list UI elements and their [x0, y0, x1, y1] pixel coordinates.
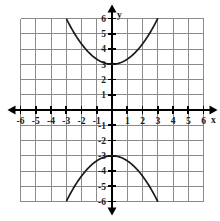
x-tick-label: 6: [201, 116, 206, 126]
y-tick-label: 2: [101, 75, 106, 85]
x-tick-label: 1: [125, 116, 130, 126]
x-tick-label: -3: [62, 116, 70, 126]
x-tick-label: -6: [17, 116, 25, 126]
graph-figure: -6-5-4-3-2-1123456654321-1-2-3-4-5-6 x y: [0, 0, 220, 221]
coordinate-plane-svg: -6-5-4-3-2-1123456654321-1-2-3-4-5-6 x y: [0, 0, 220, 221]
y-tick-label: 4: [101, 44, 106, 54]
x-tick-label: -5: [32, 116, 40, 126]
y-tick-label: -4: [98, 166, 106, 176]
x-tick-label: -2: [78, 116, 86, 126]
x-tick-label: 2: [140, 116, 145, 126]
x-tick-label: 4: [171, 116, 176, 126]
axes: [8, 5, 218, 216]
x-tick-label: 5: [186, 116, 191, 126]
x-tick-label: 3: [155, 116, 160, 126]
y-tick-label: -1: [98, 121, 106, 131]
x-tick-label: -4: [47, 116, 55, 126]
y-tick-label: -5: [98, 182, 106, 192]
y-tick-label: 6: [101, 14, 106, 24]
y-tick-label: -2: [98, 136, 106, 146]
x-axis-label: x: [211, 115, 216, 125]
y-tick-label: 5: [101, 29, 106, 39]
y-tick-label: -6: [98, 197, 106, 207]
y-axis-label: y: [117, 10, 122, 20]
y-tick-label: 1: [101, 90, 106, 100]
